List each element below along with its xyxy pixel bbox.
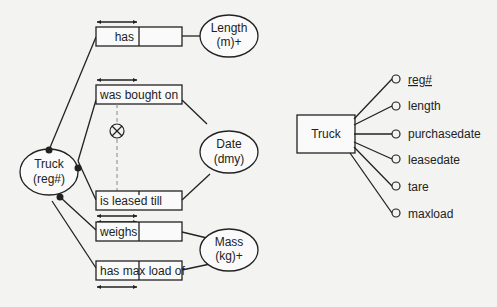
- connector-maxload: [52, 201, 96, 268]
- svg-text:(dmy): (dmy): [214, 152, 245, 166]
- svg-text:tare: tare: [408, 180, 429, 194]
- entity-truck[interactable]: Truck (reg#): [20, 149, 78, 195]
- fact-was-bought-on-label: was bought on: [99, 88, 178, 102]
- er-entity-truck[interactable]: Truck: [297, 115, 355, 153]
- fact-has-max-load-of[interactable]: has max load of: [96, 261, 185, 289]
- svg-text:leasedate: leasedate: [408, 153, 460, 167]
- svg-text:Truck: Truck: [34, 157, 65, 171]
- connector-weighs: [60, 197, 96, 230]
- svg-text:(m)+: (m)+: [217, 35, 242, 49]
- svg-text:(kg)+: (kg)+: [215, 249, 243, 263]
- svg-text:Length: Length: [211, 21, 248, 35]
- er-attribute-leasedate[interactable]: leasedate: [392, 153, 460, 167]
- svg-text:(reg#): (reg#): [33, 172, 65, 186]
- connector-has: [49, 37, 96, 150]
- value-type-date[interactable]: Date (dmy): [200, 131, 258, 173]
- svg-text:Date: Date: [216, 137, 242, 151]
- er-attribute-reg[interactable]: reg#: [392, 73, 432, 87]
- fact-weighs[interactable]: weighs: [96, 214, 182, 241]
- diagram-canvas: has was bought on is leased till weighs …: [0, 0, 497, 307]
- svg-text:Mass: Mass: [215, 235, 244, 249]
- fact-has[interactable]: has: [96, 20, 182, 46]
- svg-text:length: length: [408, 99, 441, 113]
- svg-text:Truck: Truck: [311, 127, 342, 141]
- fact-is-leased-till-label: is leased till: [100, 194, 162, 208]
- er-attribute-purchasedate[interactable]: purchasedate: [392, 127, 481, 141]
- er-attribute-length[interactable]: length: [392, 99, 441, 113]
- fact-weighs-label: weighs: [99, 225, 137, 239]
- value-type-mass[interactable]: Mass (kg)+: [200, 229, 258, 271]
- er-attribute-maxload[interactable]: maxload: [392, 207, 453, 221]
- svg-text:purchasedate: purchasedate: [408, 127, 481, 141]
- connector-bought: [78, 100, 96, 161]
- fact-is-leased-till[interactable]: is leased till: [96, 191, 182, 224]
- value-type-length[interactable]: Length (m)+: [200, 15, 258, 57]
- svg-text:maxload: maxload: [408, 207, 453, 221]
- svg-text:reg#: reg#: [408, 73, 432, 87]
- fact-has-max-load-of-label: has max load of: [100, 264, 185, 278]
- er-attribute-tare[interactable]: tare: [392, 180, 429, 194]
- fact-has-label: has: [115, 30, 134, 44]
- fact-was-bought-on[interactable]: was bought on: [96, 78, 182, 104]
